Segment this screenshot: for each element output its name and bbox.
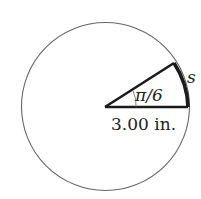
circle-sector-diagram: π/6 3.00 in. s xyxy=(0,0,201,199)
angle-label: π/6 xyxy=(134,85,163,105)
arc-label: s xyxy=(187,67,196,87)
radius-label: 3.00 in. xyxy=(111,114,176,134)
